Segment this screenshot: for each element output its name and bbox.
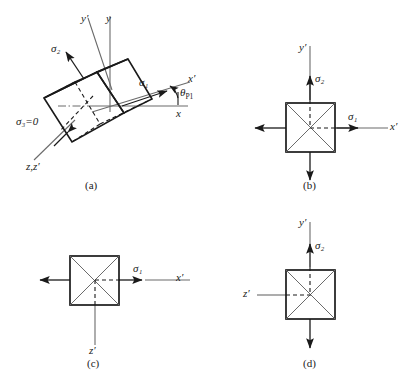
panel-a-z-zprime-label: z,z′ (26, 160, 40, 172)
panel-a-sigma2-label: σ₂ (51, 42, 60, 54)
panel-a-cube-hidden-edge-1 (75, 82, 100, 124)
panel-c (40, 256, 190, 345)
panel-a-cube-front-face (44, 72, 124, 142)
panel-a-cube-hidden-edge-3 (72, 124, 100, 142)
panel-c-sigma1-label: σ₁ (133, 262, 142, 274)
panel-a-y-prime-axis (88, 18, 112, 90)
panel-b-caption: (b) (303, 179, 316, 191)
panel-b-x-prime-label: x′ (390, 120, 397, 132)
panel-a-x-prime-label: x′ (188, 72, 195, 84)
panel-a-sigma2-arrow (66, 52, 84, 79)
panel-b-y-prime-label: y′ (299, 41, 306, 53)
panel-c-caption: (c) (87, 357, 99, 369)
panel-a-cube-hidden-edge-4 (100, 99, 152, 124)
panel-a-z-zprime-axis (34, 120, 75, 160)
panel-a (34, 16, 190, 160)
panel-a-sigma1-label: σ₁ (139, 76, 148, 88)
panel-d-y-prime-label: y′ (299, 216, 306, 228)
panel-d-sigma2-label: σ₂ (315, 239, 324, 251)
panel-a-x-label: x (176, 107, 181, 119)
panel-c-z-prime-label: z′ (89, 344, 96, 356)
panel-a-theta-p1-label: θP1 (180, 86, 193, 101)
panel-d-z-prime-label: z′ (243, 287, 250, 299)
figure-canvas (0, 0, 419, 387)
panel-a-y-label: y (106, 12, 111, 24)
panel-c-x-prime-label: x′ (176, 271, 183, 283)
panel-b (255, 46, 388, 180)
panel-a-cube-hidden-edge-5 (60, 96, 93, 131)
theta-subscript: P1 (185, 92, 193, 101)
panel-a-sigma3-label: σ₃=0 (16, 115, 38, 127)
panel-b-sigma2-label: σ₂ (315, 72, 324, 84)
panel-a-sigma1-arrow (122, 91, 167, 106)
panel-a-y-prime-label: y′ (81, 12, 88, 24)
panel-b-sigma1-label: σ₁ (348, 110, 357, 122)
panel-a-caption: (a) (85, 179, 97, 191)
panel-d-caption: (d) (303, 357, 316, 369)
